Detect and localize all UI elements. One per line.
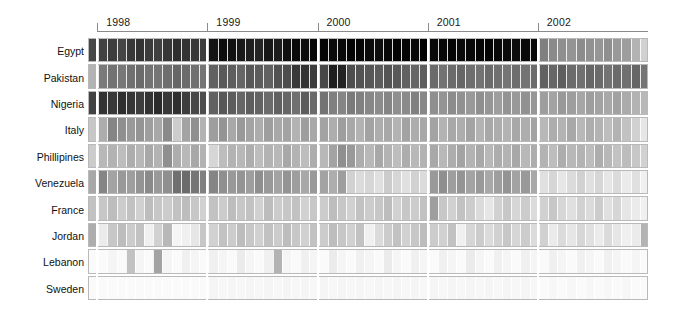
heatmap-cell — [392, 39, 401, 61]
heatmap-cell — [236, 65, 245, 87]
heatmap-cell — [566, 145, 575, 167]
heatmap-cell — [621, 65, 630, 87]
heatmap-row-nigeria — [88, 91, 648, 115]
heatmap-cell — [502, 145, 511, 167]
heatmap-cell — [254, 118, 263, 140]
heatmap-cell — [355, 92, 364, 114]
heatmap-cell — [594, 39, 603, 61]
heatmap-cell — [328, 197, 337, 219]
heatmap-cell — [245, 39, 254, 61]
heatmap-cell — [355, 171, 364, 193]
heatmap-cell — [282, 250, 291, 272]
heatmap-cell — [484, 65, 493, 87]
heatmap-cell — [511, 118, 520, 140]
heatmap-cell — [98, 277, 107, 299]
heatmap-cell — [135, 224, 144, 246]
heatmap-cell — [208, 39, 217, 61]
heatmap-cell — [126, 171, 135, 193]
heatmap-cell — [502, 65, 511, 87]
heatmap-cell — [585, 65, 594, 87]
country-label-pakistan: Pakistan — [0, 72, 84, 84]
heatmap-cell — [273, 65, 282, 87]
heatmap-cell — [300, 224, 309, 246]
heatmap-cell — [383, 277, 392, 299]
heatmap-cell — [557, 197, 566, 219]
heatmap-cell — [218, 145, 227, 167]
heatmap-cell — [245, 277, 254, 299]
heatmap-cell — [447, 250, 456, 272]
heatmap-cell — [273, 277, 282, 299]
heatmap-cell — [190, 92, 199, 114]
heatmap-cell — [135, 250, 144, 272]
heatmap-cell — [621, 92, 630, 114]
heatmap-cell — [576, 145, 585, 167]
heatmap-cell — [319, 118, 328, 140]
heatmap-cell — [98, 250, 107, 272]
heatmap-cell — [254, 224, 263, 246]
heatmap-cell — [245, 92, 254, 114]
heatmap-cell — [585, 224, 594, 246]
heatmap-cell — [401, 171, 410, 193]
heatmap-cell — [612, 145, 621, 167]
heatmap-cell — [612, 250, 621, 272]
heatmap-cell — [631, 197, 640, 219]
heatmap-cell — [245, 145, 254, 167]
heatmap-cell — [520, 65, 529, 87]
heatmap-cell — [328, 65, 337, 87]
heatmap-cell — [374, 277, 383, 299]
heatmap-cell — [107, 250, 116, 272]
heatmap-cell — [410, 171, 419, 193]
heatmap-cell — [502, 171, 511, 193]
heatmap-cell — [162, 250, 171, 272]
heatmap-cell — [328, 277, 337, 299]
heatmap-cell — [319, 197, 328, 219]
heatmap-cell — [410, 145, 419, 167]
heatmap-cell — [172, 39, 181, 61]
heatmap-cell — [273, 197, 282, 219]
heatmap-cell — [144, 250, 153, 272]
heatmap-cell — [612, 118, 621, 140]
heatmap-cell — [594, 65, 603, 87]
heatmap-cell — [218, 39, 227, 61]
heatmap-cell — [273, 39, 282, 61]
heatmap-cell — [190, 224, 199, 246]
heatmap-cell — [621, 224, 630, 246]
heatmap-cell — [319, 277, 328, 299]
heatmap-cell — [392, 65, 401, 87]
heatmap-cell — [218, 224, 227, 246]
heatmap-cell — [300, 250, 309, 272]
country-label-italy: Italy — [0, 124, 84, 136]
heatmap-cell — [236, 277, 245, 299]
heatmap-cell — [328, 39, 337, 61]
heatmap-cell — [227, 277, 236, 299]
heatmap-cell — [162, 92, 171, 114]
heatmap-cell — [631, 145, 640, 167]
heatmap-cell — [475, 65, 484, 87]
heatmap-cell — [392, 224, 401, 246]
heatmap-cell — [447, 171, 456, 193]
heatmap-cell — [410, 250, 419, 272]
heatmap-cell — [631, 39, 640, 61]
heatmap-cell — [190, 197, 199, 219]
heatmap-cell — [254, 145, 263, 167]
heatmap-cell — [291, 145, 300, 167]
heatmap-cell — [392, 197, 401, 219]
heatmap-cell — [135, 171, 144, 193]
heatmap-cell — [410, 277, 419, 299]
heatmap-cell — [300, 65, 309, 87]
heatmap-cell — [374, 39, 383, 61]
heatmap-cell — [374, 197, 383, 219]
heatmap-cell — [502, 224, 511, 246]
heatmap-cell — [135, 145, 144, 167]
heatmap-cell — [383, 145, 392, 167]
heatmap-cell — [337, 145, 346, 167]
heatmap-row-jordan — [88, 223, 648, 247]
heatmap-cell — [273, 171, 282, 193]
heatmap-cell — [557, 118, 566, 140]
heatmap-cell — [254, 277, 263, 299]
year-rule-1998 — [97, 31, 207, 32]
heatmap-cell — [465, 197, 474, 219]
heatmap-cell — [410, 118, 419, 140]
heatmap-cell — [245, 250, 254, 272]
heatmap-cell — [364, 197, 373, 219]
